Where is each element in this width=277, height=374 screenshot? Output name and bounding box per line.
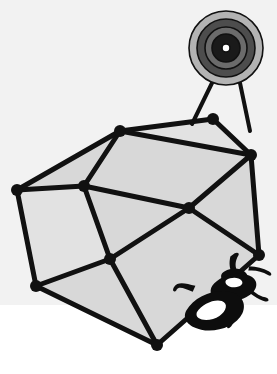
vertex-right-lower — [253, 249, 265, 261]
vertex-bottom — [151, 339, 163, 351]
vertex-right-upper — [245, 149, 257, 161]
illustration-stage — [0, 0, 277, 374]
vertex-left-lower — [30, 280, 42, 292]
illustration-svg — [0, 0, 277, 374]
vertex-inner-center — [183, 202, 195, 214]
vertex-inner-lower — [104, 253, 116, 265]
vertex-inner-mid — [78, 180, 90, 192]
vertex-top-left — [114, 125, 126, 137]
vertex-top-right — [207, 113, 219, 125]
vertex-left-upper — [11, 184, 23, 196]
